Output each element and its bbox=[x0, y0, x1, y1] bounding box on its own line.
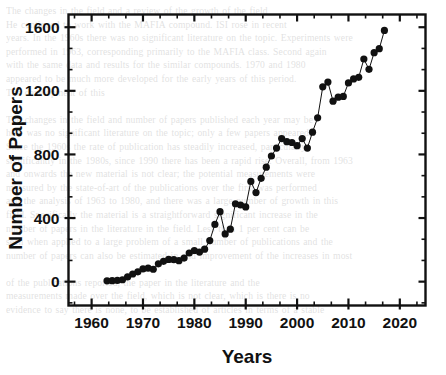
data-point bbox=[309, 129, 316, 136]
data-points bbox=[103, 27, 388, 285]
x-tick-label: 1960 bbox=[74, 314, 108, 331]
data-point bbox=[180, 255, 187, 262]
data-point bbox=[216, 208, 223, 215]
data-point bbox=[299, 135, 306, 142]
data-point bbox=[293, 142, 300, 149]
data-point bbox=[355, 74, 362, 81]
y-axis-tick-labels: 040080012001600 bbox=[25, 19, 59, 290]
x-tick-label: 2000 bbox=[280, 314, 314, 331]
data-point bbox=[360, 55, 367, 62]
y-axis-title: Number of Papers bbox=[5, 86, 26, 250]
x-axis-tick-labels: 1960197019801990200020102020 bbox=[74, 314, 417, 331]
x-tick-label: 2010 bbox=[331, 314, 365, 331]
data-point bbox=[376, 45, 383, 52]
chart-page: The changes in the field and a review of… bbox=[0, 0, 446, 375]
x-tick-label: 1980 bbox=[177, 314, 211, 331]
data-point bbox=[314, 114, 321, 121]
data-point bbox=[252, 189, 259, 196]
data-point bbox=[150, 266, 157, 273]
data-point bbox=[201, 246, 208, 253]
data-point bbox=[242, 203, 249, 210]
y-tick-label: 800 bbox=[34, 146, 60, 163]
data-point bbox=[273, 144, 280, 151]
data-point bbox=[365, 66, 372, 73]
papers-per-year-scatter-chart: 1960197019801990200020102020 04008001200… bbox=[0, 0, 446, 375]
data-point bbox=[340, 93, 347, 100]
y-tick-label: 1600 bbox=[25, 19, 59, 36]
x-axis-title: Years bbox=[222, 346, 273, 367]
x-tick-label: 2020 bbox=[383, 314, 417, 331]
x-tick-label: 1990 bbox=[228, 314, 262, 331]
data-point bbox=[227, 226, 234, 233]
data-point bbox=[263, 164, 270, 171]
data-point bbox=[304, 144, 311, 151]
data-point bbox=[206, 237, 213, 244]
data-point bbox=[268, 152, 275, 159]
data-point bbox=[247, 178, 254, 185]
data-line bbox=[107, 30, 384, 280]
y-tick-label: 400 bbox=[34, 210, 60, 227]
data-point bbox=[381, 27, 388, 34]
data-point bbox=[258, 175, 265, 182]
y-tick-label: 0 bbox=[51, 273, 60, 290]
data-point bbox=[324, 78, 331, 85]
y-tick-label: 1200 bbox=[25, 82, 59, 99]
x-tick-label: 1970 bbox=[126, 314, 160, 331]
data-point bbox=[211, 221, 218, 228]
